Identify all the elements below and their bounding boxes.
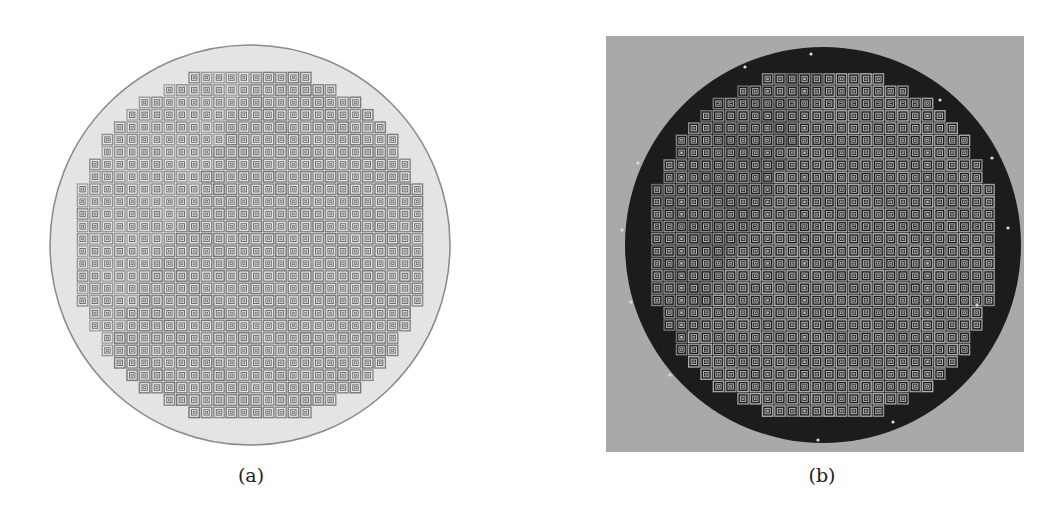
wafer-photograph: [600, 30, 1030, 460]
caption-b: (b): [792, 464, 852, 486]
wafer-layout-diagram: [40, 30, 470, 460]
caption-a: (a): [221, 464, 281, 486]
panel-b-wafer-photo: [600, 30, 1030, 460]
panel-a-wafer-layout: [40, 30, 470, 460]
